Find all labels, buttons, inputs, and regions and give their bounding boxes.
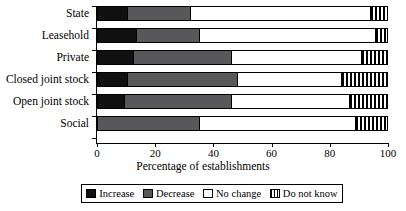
bar-row bbox=[97, 116, 388, 131]
bar-track bbox=[97, 72, 388, 87]
swatch-dontknow-icon bbox=[270, 189, 280, 198]
bar-track bbox=[97, 28, 388, 43]
category-label-leasehold: Leasehold bbox=[42, 28, 89, 42]
bar-row bbox=[97, 6, 388, 21]
legend-item-increase: Increase bbox=[86, 188, 134, 199]
x-axis-tick-label: 80 bbox=[324, 147, 335, 159]
legend-item-nochange: No change bbox=[203, 188, 261, 199]
bar-segment-do-not-know bbox=[355, 117, 387, 130]
x-axis-tick-label: 0 bbox=[94, 147, 100, 159]
bar-row bbox=[97, 50, 388, 65]
category-label-open-joint-stock: Open joint stock bbox=[13, 94, 89, 108]
bar-segment-no-change bbox=[190, 7, 369, 20]
legend-label-increase: Increase bbox=[99, 188, 134, 199]
bar-segment-do-not-know bbox=[361, 51, 387, 64]
legend-item-decrease: Decrease bbox=[143, 188, 194, 199]
bar-segment-do-not-know bbox=[349, 95, 387, 108]
x-axis-title: Percentage of establishments bbox=[0, 160, 406, 172]
y-axis-tick bbox=[92, 72, 97, 73]
chart-legend: Increase Decrease No change Do not know bbox=[81, 184, 343, 203]
y-axis-tick bbox=[92, 28, 97, 29]
swatch-decrease-icon bbox=[143, 189, 153, 198]
bar-track bbox=[97, 94, 388, 109]
bar-segment-increase bbox=[98, 7, 127, 20]
swatch-nochange-icon bbox=[203, 189, 213, 198]
bar-track bbox=[97, 116, 388, 131]
category-label-social: Social bbox=[60, 116, 89, 130]
bar-segment-no-change bbox=[199, 29, 375, 42]
x-axis-tick-label: 40 bbox=[208, 147, 219, 159]
bar-segment-decrease bbox=[98, 117, 199, 130]
bar-row bbox=[97, 72, 388, 87]
plot-area: State Leasehold Private Closed joint sto… bbox=[0, 0, 406, 160]
legend-label-dontknow: Do not know bbox=[283, 188, 338, 199]
category-label-state: State bbox=[66, 6, 89, 20]
bar-segment-no-change bbox=[231, 51, 361, 64]
bar-segment-decrease bbox=[127, 7, 191, 20]
y-axis-tick bbox=[92, 6, 97, 7]
category-label-closed-joint-stock: Closed joint stock bbox=[6, 72, 89, 86]
y-axis-tick bbox=[92, 138, 97, 139]
legend-item-dontknow: Do not know bbox=[270, 188, 338, 199]
bars-area bbox=[97, 6, 388, 142]
bar-segment-no-change bbox=[237, 73, 341, 86]
bar-row bbox=[97, 28, 388, 43]
y-axis-line bbox=[96, 6, 97, 143]
bar-segment-decrease bbox=[133, 51, 231, 64]
bar-track bbox=[97, 6, 388, 21]
category-axis-labels: State Leasehold Private Closed joint sto… bbox=[0, 6, 93, 142]
bar-segment-do-not-know bbox=[341, 73, 387, 86]
x-axis-tick-label: 100 bbox=[380, 147, 397, 159]
bar-segment-do-not-know bbox=[370, 7, 387, 20]
y-axis-tick bbox=[92, 94, 97, 95]
bar-segment-decrease bbox=[136, 29, 200, 42]
y-axis-tick bbox=[92, 50, 97, 51]
x-axis-tick-label: 60 bbox=[266, 147, 277, 159]
bar-segment-no-change bbox=[199, 117, 355, 130]
legend-label-decrease: Decrease bbox=[156, 188, 194, 199]
bar-segment-decrease bbox=[124, 95, 231, 108]
x-axis-line bbox=[96, 143, 389, 144]
bar-segment-do-not-know bbox=[375, 29, 387, 42]
legend-label-nochange: No change bbox=[216, 188, 261, 199]
swatch-increase-icon bbox=[86, 189, 96, 198]
bar-segment-increase bbox=[98, 29, 136, 42]
bar-row bbox=[97, 94, 388, 109]
category-label-private: Private bbox=[56, 50, 89, 64]
bar-segment-no-change bbox=[231, 95, 349, 108]
y-axis-tick bbox=[92, 116, 97, 117]
x-axis-tick-label: 20 bbox=[150, 147, 161, 159]
bar-segment-increase bbox=[98, 51, 133, 64]
bar-segment-increase bbox=[98, 73, 127, 86]
bar-track bbox=[97, 50, 388, 65]
bar-segment-decrease bbox=[127, 73, 237, 86]
bar-segment-increase bbox=[98, 95, 124, 108]
stacked-bar-chart: State Leasehold Private Closed joint sto… bbox=[0, 0, 406, 211]
